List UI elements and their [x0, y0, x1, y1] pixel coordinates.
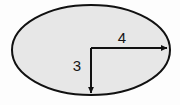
horizontal-dimension-label: 4	[118, 29, 126, 46]
ellipse-diagram: 4 3	[0, 0, 180, 105]
vertical-dimension-label: 3	[73, 57, 81, 74]
figure-canvas: 4 3	[0, 0, 180, 105]
